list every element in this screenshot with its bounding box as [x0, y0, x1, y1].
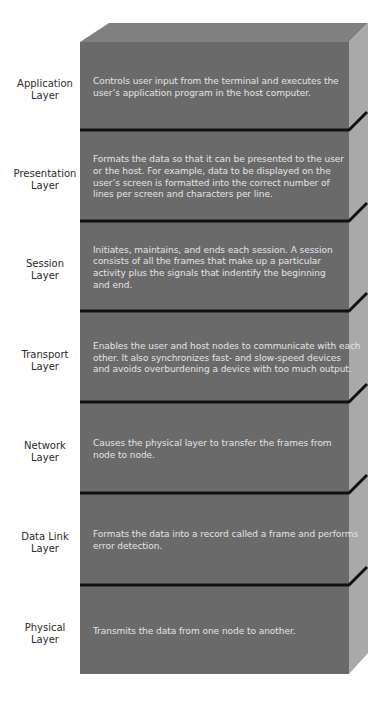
layer-description: Initiates, maintains, and ends each sess…	[93, 221, 345, 311]
layer-label-line: Presentation	[14, 168, 77, 180]
layer-transport: TransportLayerEnables the user and host …	[0, 311, 383, 402]
layer-description-line: Controls user input from the terminal an…	[93, 76, 345, 88]
layer-description-line: lines per screen and characters per line…	[93, 189, 345, 201]
layer-label-line: Session	[26, 258, 64, 270]
layer-description-line: and end.	[93, 280, 345, 292]
layer-description: Causes the physical layer to transfer th…	[93, 402, 345, 493]
layer-description: Formats the data so that it can be prese…	[93, 130, 345, 221]
block-top-face	[80, 23, 368, 42]
layer-label: PresentationLayer	[0, 130, 90, 221]
layer-description: Transmits the data from one node to anot…	[93, 585, 345, 674]
layer-description: Formats the data into a record called a …	[93, 493, 345, 585]
layer-label: NetworkLayer	[0, 402, 90, 493]
layer-label: SessionLayer	[0, 221, 90, 311]
layer-label-line: Data Link	[21, 531, 69, 543]
layer-label-line: Layer	[31, 634, 59, 646]
layer-description-line: Initiates, maintains, and ends each sess…	[93, 245, 345, 257]
layer-label: TransportLayer	[0, 311, 90, 402]
layer-label-line: Application	[17, 78, 73, 90]
layer-description-line: activity plus the signals that indentify…	[93, 268, 345, 280]
layer-description: Enables the user and host nodes to commu…	[93, 311, 345, 402]
osi-layer-diagram: ApplicationLayerControls user input from…	[0, 0, 383, 707]
layer-description-line: Formats the data so that it can be prese…	[93, 154, 345, 166]
layer-label: PhysicalLayer	[0, 585, 90, 674]
layer-description-line: Transmits the data from one node to anot…	[93, 626, 345, 638]
layer-description-line: Formats the data into a record called a …	[93, 529, 345, 541]
layer-label-line: Layer	[31, 452, 59, 464]
layer-presentation: PresentationLayerFormats the data so tha…	[0, 130, 383, 221]
layer-label-line: Transport	[22, 349, 69, 361]
layer-description-line: Enables the user and host nodes to commu…	[93, 341, 345, 353]
layer-label-line: Network	[24, 440, 66, 452]
layer-description-line: or the host. For example, data to be dis…	[93, 166, 345, 178]
layer-session: SessionLayerInitiates, maintains, and en…	[0, 221, 383, 311]
layer-label-line: Layer	[31, 180, 59, 192]
layer-description-line: Causes the physical layer to transfer th…	[93, 438, 345, 450]
layer-label: Data LinkLayer	[0, 493, 90, 585]
layer-description-line: user’s screen is formatted into the corr…	[93, 178, 345, 190]
layer-label-line: Layer	[31, 90, 59, 102]
layer-description-line: and avoids overburdening a device with t…	[93, 364, 345, 376]
layer-network: NetworkLayerCauses the physical layer to…	[0, 402, 383, 493]
layer-physical: PhysicalLayerTransmits the data from one…	[0, 585, 383, 674]
layer-label-line: Layer	[31, 361, 59, 373]
layer-label-line: Layer	[31, 270, 59, 282]
layer-label: ApplicationLayer	[0, 42, 90, 130]
layer-description-line: user’s application program in the host c…	[93, 88, 345, 100]
layer-label-line: Physical	[25, 622, 66, 634]
layer-description-line: consists of all the frames that make up …	[93, 256, 345, 268]
layer-label-line: Layer	[31, 543, 59, 555]
layer-description: Controls user input from the terminal an…	[93, 42, 345, 130]
layer-application: ApplicationLayerControls user input from…	[0, 42, 383, 130]
layer-description-line: node to node.	[93, 450, 345, 462]
layer-description-line: error detection.	[93, 541, 345, 553]
layer-description-line: other. It also synchronizes fast- and sl…	[93, 353, 345, 365]
layer-data-link: Data LinkLayerFormats the data into a re…	[0, 493, 383, 585]
